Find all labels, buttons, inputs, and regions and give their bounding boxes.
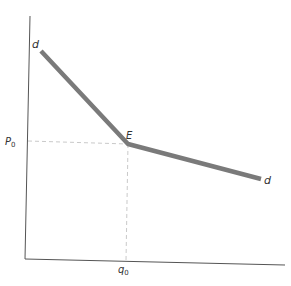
price-label: P0 (5, 136, 16, 149)
kink-label: E (126, 130, 133, 141)
quantity-label-subscript: 0 (124, 269, 128, 277)
price-axis (25, 16, 30, 259)
quantity-guide-line (126, 144, 128, 261)
kinked-demand-diagram: d d E P0 q0 (0, 0, 291, 286)
demand-curve (41, 51, 261, 179)
quantity-axis (25, 259, 285, 265)
curve-end-label: d (264, 174, 272, 187)
quantity-label: q0 (118, 264, 129, 277)
price-guide-line (28, 141, 128, 144)
curve-start-label: d (32, 38, 40, 51)
price-label-subscript: 0 (11, 141, 15, 149)
